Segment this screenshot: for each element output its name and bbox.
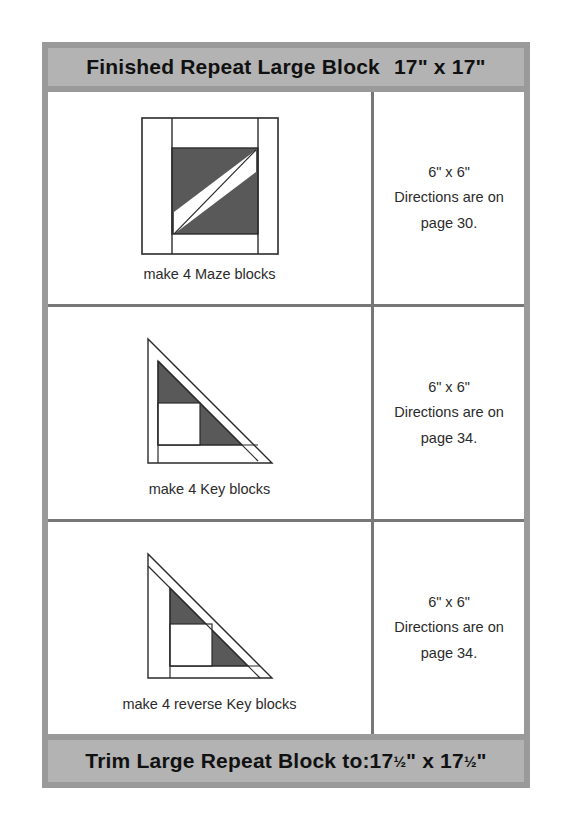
- key-block-caption: make 4 Key blocks: [149, 481, 271, 497]
- directions-text: Directions are on: [394, 185, 504, 210]
- page-reference-text: page 30.: [394, 211, 504, 236]
- pattern-chart-frame: Finished Repeat Large Block 17" x 17": [42, 42, 530, 788]
- block-size-text: 6" x 6": [394, 160, 504, 185]
- page-reference-text: page 34.: [394, 641, 504, 666]
- footer-label: Trim Large Repeat Block to:17: [85, 749, 393, 773]
- table-row: make 4 Maze blocks 6" x 6" Directions ar…: [48, 92, 524, 307]
- directions-text: Directions are on: [394, 615, 504, 640]
- directions-text: Directions are on: [394, 400, 504, 425]
- maze-block-caption: make 4 Maze blocks: [143, 266, 275, 282]
- maze-block-info-cell: 6" x 6" Directions are on page 30.: [374, 92, 524, 304]
- reverse-key-block-diagram: [140, 546, 280, 686]
- footer-fraction-second: ½: [464, 753, 477, 770]
- reverse-key-block-icon: [140, 546, 280, 686]
- key-block-info-cell: 6" x 6" Directions are on page 34.: [374, 307, 524, 519]
- table-row: make 4 Key blocks 6" x 6" Directions are…: [48, 307, 524, 522]
- block-table: make 4 Maze blocks 6" x 6" Directions ar…: [48, 92, 524, 734]
- header-title: Finished Repeat Large Block: [86, 55, 380, 79]
- reverse-key-block-cell: make 4 reverse Key blocks: [48, 522, 374, 734]
- table-row: make 4 reverse Key blocks 6" x 6" Direct…: [48, 522, 524, 734]
- footer-middle: " x 17: [406, 749, 464, 773]
- page-reference-text: page 34.: [394, 426, 504, 451]
- maze-block-icon: [140, 116, 280, 256]
- maze-block-cell: make 4 Maze blocks: [48, 92, 374, 304]
- key-block-diagram: [140, 331, 280, 471]
- header-block-size: 17" x 17": [394, 55, 486, 79]
- block-size-text: 6" x 6": [394, 590, 504, 615]
- footer-banner: Trim Large Repeat Block to:17½" x 17½": [48, 734, 524, 782]
- key-block-icon: [140, 331, 280, 471]
- maze-block-diagram: [140, 116, 280, 256]
- reverse-key-block-info-cell: 6" x 6" Directions are on page 34.: [374, 522, 524, 734]
- block-size-text: 6" x 6": [394, 375, 504, 400]
- footer-fraction-first: ½: [393, 753, 406, 770]
- key-block-cell: make 4 Key blocks: [48, 307, 374, 519]
- header-banner: Finished Repeat Large Block 17" x 17": [48, 48, 524, 92]
- footer-end: ": [476, 749, 486, 773]
- reverse-key-block-caption: make 4 reverse Key blocks: [122, 696, 296, 712]
